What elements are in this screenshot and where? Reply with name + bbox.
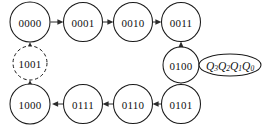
node-1000-label: 1000 [19,99,42,111]
edge-0001-to-0010 [103,19,114,24]
edge-0111-to-1000 [52,101,64,106]
node-0110-label: 0110 [122,99,145,111]
state-diagram: 0000 0001 0010 0011 0100 0101 [0,0,265,127]
node-0101[interactable]: 0101 [162,85,201,124]
node-0001[interactable]: 0001 [64,3,103,42]
node-0100[interactable]: 0100 [163,47,199,83]
node-1000[interactable]: 1000 [10,84,50,124]
edge-group [27,19,183,106]
diagram-canvas: 0000 0001 0010 0011 0100 0101 [0,0,265,127]
legend-bit-order: Q3Q2Q1Q0 [199,54,261,76]
node-0011-label: 0011 [170,17,192,29]
node-0111-label: 0111 [72,99,94,111]
legend-q0-sub: 0 [250,64,254,73]
node-0010-label: 0010 [122,17,145,29]
legend-label: Q3Q2Q1Q0 [206,60,255,73]
node-0010[interactable]: 0010 [114,3,153,42]
node-0101-label: 0101 [170,99,193,111]
edge-0101-to-0110 [153,101,162,106]
node-0110[interactable]: 0110 [114,85,153,124]
node-0000[interactable]: 0000 [10,2,50,42]
node-0011[interactable]: 0011 [162,3,201,42]
node-0001-label: 0001 [72,17,95,29]
node-0111[interactable]: 0111 [64,85,103,124]
node-1001-label: 1001 [19,58,42,70]
edge-0000-to-0001 [51,19,64,24]
node-group: 0000 0001 0010 0011 0100 0101 [10,2,201,124]
node-0100-label: 0100 [170,60,193,72]
edge-0110-to-0111 [103,101,114,106]
node-1001-dashed[interactable]: 1001 [13,46,47,80]
edge-0010-to-0011 [153,19,162,24]
node-0000-label: 0000 [19,17,42,29]
